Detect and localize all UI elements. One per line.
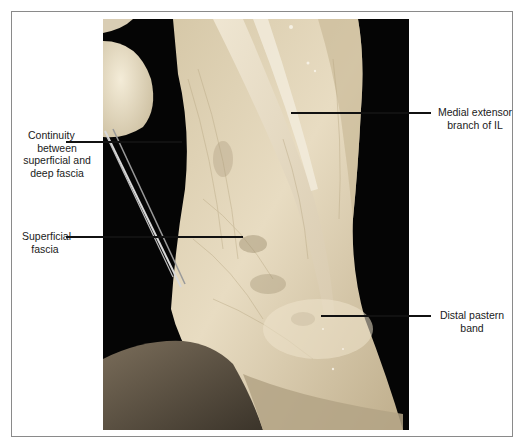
leader-line-medial-extensor (291, 112, 431, 114)
dissection-photo-illustration (103, 19, 409, 430)
label-continuity-line2: between (18, 142, 96, 155)
label-continuity-line3: superficial and (18, 154, 96, 167)
label-continuity: Continuity between superficial and deep … (18, 129, 96, 179)
leader-line-distal-pastern (321, 315, 431, 317)
label-distal-pastern-band: Distal pastern band (433, 309, 511, 334)
label-medial-line1: Medial extensor (433, 106, 517, 119)
label-medial-line2: branch of IL (433, 119, 517, 132)
label-superficial-line2: fascia (22, 243, 68, 256)
label-continuity-line4: deep fascia (18, 167, 96, 180)
label-superficial-line1: Superficial (22, 230, 68, 243)
label-medial-extensor-branch: Medial extensor branch of IL (433, 106, 517, 131)
label-continuity-line1: Continuity (18, 129, 96, 142)
label-superficial-fascia: Superficial fascia (22, 230, 68, 255)
dissection-photo (103, 19, 409, 430)
leader-line-superficial-fascia (66, 236, 243, 238)
label-distal-line2: band (433, 322, 511, 335)
label-distal-line1: Distal pastern (433, 309, 511, 322)
